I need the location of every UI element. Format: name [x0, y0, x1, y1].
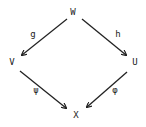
arrow-g: [22, 19, 67, 55]
node-w: W: [70, 7, 76, 17]
label-g: g: [30, 29, 35, 39]
label-psi: ψ: [33, 85, 38, 95]
node-v: V: [9, 57, 15, 67]
node-x: X: [73, 110, 79, 120]
arrow-psi: [20, 71, 66, 108]
label-h: h: [115, 29, 120, 39]
node-u: U: [132, 57, 137, 67]
arrow-phi: [87, 72, 127, 107]
label-phi: φ: [112, 85, 118, 95]
commutative-diagram: W V U X g h ψ φ: [0, 0, 146, 127]
